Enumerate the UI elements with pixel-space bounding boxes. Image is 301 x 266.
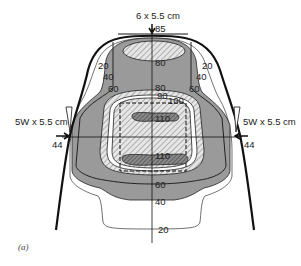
isodose-label-60-left: 60 bbox=[108, 83, 119, 94]
isodose-label-110-upper: 110 bbox=[155, 113, 170, 124]
left-beam-label: 5W x 5.5 cm bbox=[15, 116, 68, 127]
anterior-entry-dose: 85 bbox=[155, 23, 166, 34]
left-entry-dose: 44 bbox=[52, 139, 63, 150]
anterior-beam-label: 6 x 5.5 cm bbox=[136, 10, 180, 21]
isodose-diagram: 6 x 5.5 cm 85 5W x 5.5 cm 44 5W x 5.5 cm… bbox=[0, 0, 301, 266]
isodose-label-40-left: 40 bbox=[103, 71, 114, 82]
right-beam-label: 5W x 5.5 cm bbox=[243, 116, 296, 127]
isodose-label-20-bottom: 20 bbox=[158, 224, 169, 235]
isodose-label-20-left: 20 bbox=[98, 60, 109, 71]
isodose-label-100: 100 bbox=[168, 95, 184, 106]
anterior-hotspot bbox=[123, 41, 185, 61]
isodose-label-90: 90 bbox=[157, 90, 168, 101]
right-entry-dose: 44 bbox=[244, 139, 255, 150]
isodose-label-60-right: 60 bbox=[189, 83, 200, 94]
isodose-label-110-lower: 110 bbox=[155, 150, 170, 161]
isodose-label-60-bottom: 60 bbox=[155, 179, 166, 190]
figure-caption: (a) bbox=[18, 242, 29, 252]
isodose-label-20-right: 20 bbox=[202, 60, 213, 71]
isodose-label-40-bottom: 40 bbox=[155, 196, 166, 207]
isodose-label-80-upper: 80 bbox=[155, 57, 166, 68]
isodose-label-40-right: 40 bbox=[196, 71, 207, 82]
